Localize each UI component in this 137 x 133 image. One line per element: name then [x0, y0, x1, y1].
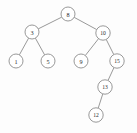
tree-node-10[interactable]: 10 [96, 26, 110, 40]
tree-node-9[interactable]: 9 [74, 54, 88, 68]
tree-edge-13-12 [98, 94, 103, 108]
node-label-10: 10 [100, 30, 106, 36]
node-label-13: 13 [102, 84, 108, 90]
tree-edge-3-5 [35, 38, 44, 55]
binary-tree-figure: 8310159151312 [0, 0, 137, 133]
tree-node-12[interactable]: 12 [89, 108, 103, 122]
tree-edge-10-9 [85, 39, 98, 56]
node-label-5: 5 [46, 58, 49, 65]
tree-nodes: 8310159151312 [9, 7, 124, 122]
tree-node-5[interactable]: 5 [41, 54, 55, 68]
tree-edge-10-15 [106, 39, 114, 54]
tree-edge-3-1 [19, 38, 28, 55]
node-label-15: 15 [114, 58, 120, 64]
node-label-12: 12 [93, 112, 99, 118]
tree-node-3[interactable]: 3 [25, 25, 39, 39]
tree-canvas: 8310159151312 [0, 0, 137, 133]
tree-node-13[interactable]: 13 [98, 80, 112, 94]
node-label-3: 3 [30, 29, 33, 36]
node-label-8: 8 [66, 11, 69, 18]
tree-node-8[interactable]: 8 [61, 7, 75, 21]
node-label-9: 9 [79, 58, 82, 65]
tree-edge-15-13 [108, 68, 114, 81]
tree-node-1[interactable]: 1 [9, 54, 23, 68]
tree-node-15[interactable]: 15 [110, 54, 124, 68]
tree-edge-8-10 [74, 17, 97, 29]
node-label-1: 1 [14, 58, 17, 65]
tree-edge-8-3 [38, 17, 61, 29]
